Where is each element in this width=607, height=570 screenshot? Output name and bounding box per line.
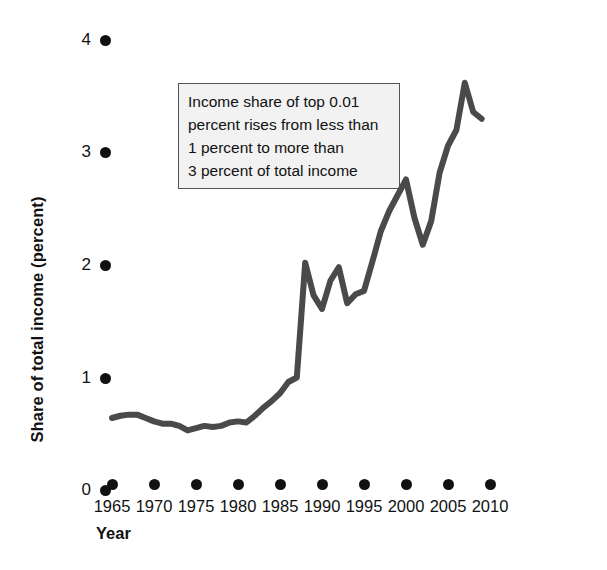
y-axis-label: Share of total income (percent) [28,120,47,520]
x-axis-title: Year [96,524,131,543]
x-tick-dot-icon [233,479,244,490]
y-tick-dot-icon [100,260,111,271]
x-tick-2010: 2010 [467,479,513,516]
x-tick-label-1990: 1990 [304,497,341,516]
x-tick-label-2005: 2005 [430,497,467,516]
x-tick-label-2010: 2010 [472,497,509,516]
x-tick-1975: 1975 [173,479,219,516]
x-tick-dot-icon [401,479,412,490]
x-tick-1985: 1985 [257,479,303,516]
y-tick-label-3: 3 [78,142,91,162]
x-tick-label-1995: 1995 [346,497,383,516]
y-tick-dot-icon [100,35,111,46]
x-tick-label-1970: 1970 [136,497,173,516]
x-tick-2000: 2000 [383,479,429,516]
annotation-line-2: percent rises from less than [188,113,390,136]
x-tick-1970: 1970 [131,479,177,516]
line-chart: Share of total income (percent) 4 3 2 1 … [0,0,607,570]
x-tick-dot-icon [275,479,286,490]
x-tick-label-1985: 1985 [262,497,299,516]
x-tick-1980: 1980 [215,479,261,516]
x-tick-dot-icon [317,479,328,490]
x-tick-1965: 1965 [89,479,135,516]
x-tick-2005: 2005 [425,479,471,516]
x-tick-label-1980: 1980 [220,497,257,516]
annotation-box: Income share of top 0.01 percent rises f… [178,83,400,189]
y-tick-label-4: 4 [78,30,91,50]
x-tick-1995: 1995 [341,479,387,516]
y-tick-dot-icon [100,147,111,158]
annotation-line-1: Income share of top 0.01 [188,90,390,113]
x-tick-dot-icon [443,479,454,490]
x-tick-dot-icon [107,479,118,490]
x-tick-dot-icon [149,479,160,490]
annotation-line-3: 1 percent to more than [188,136,390,159]
y-tick-3: 3 [78,142,111,162]
x-tick-dot-icon [485,479,496,490]
x-tick-label-1965: 1965 [94,497,131,516]
x-tick-label-2000: 2000 [388,497,425,516]
y-tick-2: 2 [78,255,111,275]
y-tick-dot-icon [100,373,111,384]
y-tick-4: 4 [78,30,111,50]
y-tick-1: 1 [78,368,111,388]
y-tick-label-1: 1 [78,368,91,388]
x-tick-dot-icon [359,479,370,490]
x-tick-1990: 1990 [299,479,345,516]
annotation-line-4: 3 percent of total income [188,159,390,182]
y-tick-label-2: 2 [78,255,91,275]
x-tick-label-1975: 1975 [178,497,215,516]
x-tick-dot-icon [191,479,202,490]
